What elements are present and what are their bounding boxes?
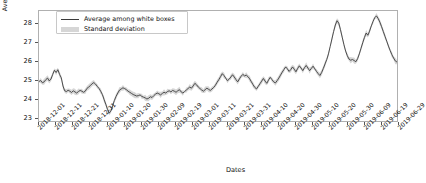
line-swatch-icon <box>61 19 79 20</box>
y-tick-label: 27 <box>4 39 32 46</box>
y-tick-label: 26 <box>4 58 32 65</box>
x-axis-ticks: 2018-12-012018-12-112018-12-212018-12-31… <box>0 122 415 167</box>
legend: Average among white boxes Standard devia… <box>56 11 188 34</box>
x-tick-mark <box>312 122 313 125</box>
x-tick-mark <box>295 122 296 125</box>
x-tick-mark <box>89 122 90 125</box>
x-axis-label-text: Dates <box>226 166 245 174</box>
y-tick-label: 24 <box>4 96 32 103</box>
y-tick-label: 28 <box>4 20 32 27</box>
x-tick-mark <box>209 122 210 125</box>
x-tick-mark <box>261 122 262 125</box>
x-tick-mark <box>192 122 193 125</box>
x-tick-mark <box>227 122 228 125</box>
x-tick-mark <box>347 122 348 125</box>
band-swatch-icon <box>61 27 79 32</box>
x-axis-label: Dates <box>0 166 415 174</box>
legend-label-stddev: Standard deviation <box>84 25 145 34</box>
x-tick-mark <box>244 122 245 125</box>
y-tick-label: 23 <box>4 115 32 122</box>
x-tick-mark <box>364 122 365 125</box>
x-tick-mark <box>398 122 399 125</box>
x-tick-mark <box>141 122 142 125</box>
x-tick-mark <box>329 122 330 125</box>
legend-item-average: Average among white boxes <box>61 15 183 24</box>
legend-label-average: Average among white boxes <box>84 15 175 24</box>
x-tick-mark <box>175 122 176 125</box>
x-tick-mark <box>158 122 159 125</box>
x-tick-mark <box>381 122 382 125</box>
x-tick-mark <box>107 122 108 125</box>
x-tick-mark <box>38 122 39 125</box>
x-tick-mark <box>55 122 56 125</box>
y-tick-label: 25 <box>4 77 32 84</box>
legend-item-stddev: Standard deviation <box>61 25 183 34</box>
x-tick-mark <box>124 122 125 125</box>
x-tick-mark <box>72 122 73 125</box>
x-tick-mark <box>278 122 279 125</box>
